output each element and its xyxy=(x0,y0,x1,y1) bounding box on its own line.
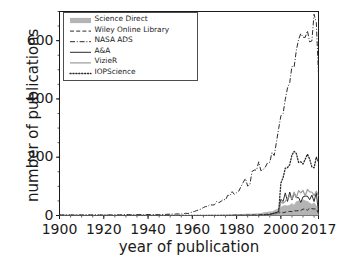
publications-chart-figure: number of publications year of publicati… xyxy=(0,0,342,267)
legend-swatch-0 xyxy=(70,17,91,22)
legend-label-5: IOPScience xyxy=(95,67,136,76)
legend-label-1: Wiley Online Library xyxy=(95,25,170,34)
x-axis-label: year of publication xyxy=(60,238,318,256)
x-tick-1900: 1900 xyxy=(37,221,83,237)
x-tick-1980: 1980 xyxy=(214,221,260,237)
y-tick-600: 600 xyxy=(18,32,54,48)
legend-label-4: VizieR xyxy=(95,56,118,65)
x-tick-1920: 1920 xyxy=(81,221,127,237)
y-axis-label: number of publications xyxy=(24,32,42,202)
y-tick-400: 400 xyxy=(18,90,54,106)
legend-label-2: NASA ADS xyxy=(95,35,133,44)
legend-label-0: Science Direct xyxy=(95,14,148,23)
series-5 xyxy=(60,151,319,215)
x-tick-2017: 2017 xyxy=(296,221,342,237)
legend-label-3: A&A xyxy=(95,46,111,55)
x-tick-1960: 1960 xyxy=(169,221,215,237)
x-tick-1940: 1940 xyxy=(125,221,171,237)
y-tick-200: 200 xyxy=(18,148,54,164)
